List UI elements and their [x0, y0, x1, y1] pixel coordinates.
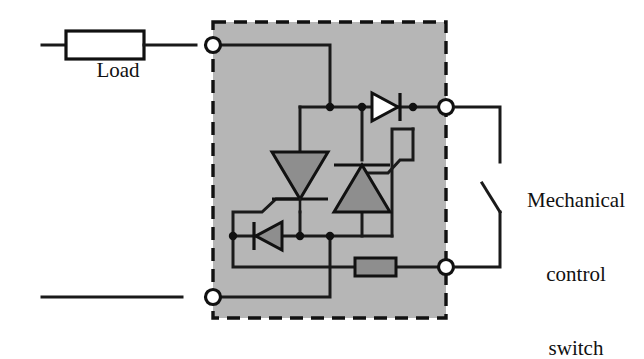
- mechanical-switch-label-line3: switch: [512, 336, 640, 359]
- gate-resistor-body: [355, 258, 396, 276]
- terminal-bottom-right: [439, 260, 454, 275]
- junction-dot-diode-output: [409, 103, 417, 111]
- terminal-top-left: [206, 38, 221, 53]
- load-resistor-body: [66, 31, 144, 59]
- switch-lead-bottom: [455, 212, 500, 267]
- junction-dot-bottom-left: [229, 232, 237, 240]
- junction-dot-bottom-mid: [296, 232, 304, 240]
- terminal-top-right: [439, 100, 454, 115]
- switch-lead-top: [455, 107, 500, 162]
- mechanical-switch-label-line2: control: [512, 262, 640, 287]
- junction-dot-bottom-right: [326, 232, 334, 240]
- junction-dot-upper-left: [326, 103, 334, 111]
- junction-dot-upper-right: [358, 103, 366, 111]
- load-branch: [42, 31, 196, 59]
- terminal-bottom-left: [206, 290, 221, 305]
- load-label: Load: [58, 58, 178, 83]
- mechanical-switch-label-line1: Mechanical: [512, 188, 640, 213]
- mechanical-switch-label: Mechanical control switch: [512, 138, 640, 359]
- switch-blade[interactable]: [482, 183, 500, 212]
- mechanical-control-switch[interactable]: [455, 107, 500, 267]
